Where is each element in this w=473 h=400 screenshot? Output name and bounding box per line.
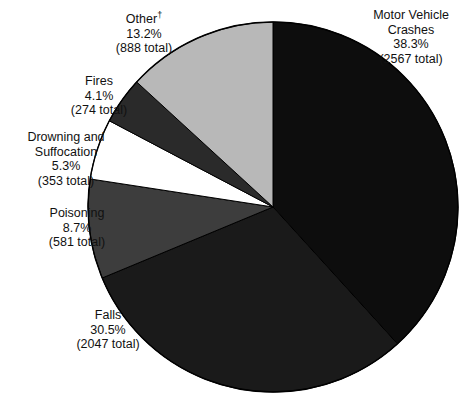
slice-label-count: (2567 total) — [352, 52, 470, 67]
slice-label-name-line2: Suffocation — [2, 145, 130, 160]
slice-label-name: Falls — [44, 308, 172, 323]
slice-label-name: Fires — [44, 74, 154, 89]
slice-label-poisoning: Poisoning 8.7% (581 total) — [22, 206, 132, 250]
slice-label-count: (581 total) — [22, 235, 132, 250]
slice-label-other: Other† 13.2% (888 total) — [88, 12, 200, 56]
slice-label-percent: 13.2% — [88, 27, 200, 42]
slice-label-motor-vehicle-crashes: Motor Vehicle Crashes 38.3% (2567 total) — [352, 8, 470, 66]
slice-label-count: (888 total) — [88, 41, 200, 56]
dagger-icon: † — [157, 10, 162, 20]
slice-label-name-text: Other — [126, 12, 157, 26]
slice-label-fires: Fires 4.1% (274 total) — [44, 74, 154, 118]
slice-label-count: (274 total) — [44, 103, 154, 118]
slice-label-name-line1: Motor Vehicle — [352, 8, 470, 23]
pie-chart-figure: Motor Vehicle Crashes 38.3% (2567 total)… — [0, 0, 473, 400]
slice-label-name-line1: Drowning and — [2, 130, 130, 145]
slice-label-percent: 5.3% — [2, 159, 130, 174]
slice-label-name: Poisoning — [22, 206, 132, 221]
slice-label-percent: 30.5% — [44, 323, 172, 338]
slice-label-drowning-suffocation: Drowning and Suffocation 5.3% (353 total… — [2, 130, 130, 188]
slice-label-count: (2047 total) — [44, 337, 172, 352]
slice-label-percent: 38.3% — [352, 37, 470, 52]
slice-label-count: (353 total) — [2, 174, 130, 189]
slice-label-falls: Falls 30.5% (2047 total) — [44, 308, 172, 352]
slice-label-percent: 4.1% — [44, 89, 154, 104]
slice-label-name-line2: Crashes — [352, 23, 470, 38]
slice-label-name: Other† — [88, 12, 200, 27]
slice-label-percent: 8.7% — [22, 221, 132, 236]
